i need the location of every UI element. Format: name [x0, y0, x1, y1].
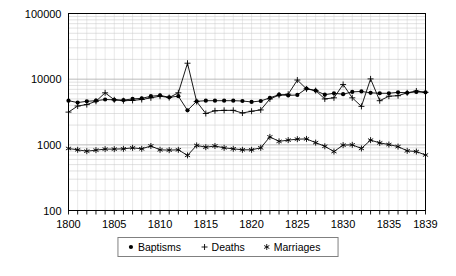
y-tick-label: 1000 [37, 139, 61, 151]
x-tick-label: 1839 [413, 218, 437, 230]
y-axis-labels: 100000100001000100 [25, 8, 62, 217]
legend-label: Baptisms [138, 241, 181, 253]
x-tick-label: 1810 [148, 218, 172, 230]
legend-label: Marriages [274, 241, 321, 253]
chart-legend: BaptismsDeathsMarriages [118, 238, 338, 257]
x-tick-label: 1820 [239, 218, 263, 230]
x-tick-label: 1805 [102, 218, 126, 230]
y-tick-label: 10000 [31, 73, 62, 85]
x-tick-label: 1835 [377, 218, 401, 230]
legend-label: Deaths [212, 241, 245, 253]
x-tick-label: 1825 [285, 218, 309, 230]
axis-tickmarks [69, 211, 426, 215]
x-tick-label: 1815 [194, 218, 218, 230]
y-tick-label: 100000 [25, 8, 62, 20]
x-tick-label: 1830 [331, 218, 355, 230]
y-tick-label: 100 [43, 205, 61, 217]
chart-container: 100000100001000100 180018051810181518201… [0, 0, 456, 276]
x-axis-labels: 180018051810181518201825183018351839 [56, 218, 437, 230]
x-tick-label: 1800 [56, 218, 80, 230]
line-chart: 100000100001000100 180018051810181518201… [0, 0, 456, 276]
